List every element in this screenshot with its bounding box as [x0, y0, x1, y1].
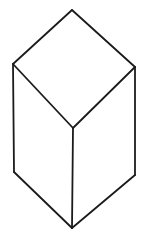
edge-top-right [72, 10, 135, 67]
edge-left-front_top [13, 64, 73, 128]
edge-front_top-front_bottom [72, 128, 73, 228]
edge-bottom_left-front_bottom [14, 172, 72, 228]
figure-container [0, 0, 145, 242]
cuboid-line-drawing [0, 0, 145, 242]
edge-left-bottom_left [13, 64, 14, 172]
edge-top-left [13, 10, 72, 64]
edge-bottom_right-front_bottom [72, 175, 135, 228]
edge-right-front_top [73, 67, 135, 128]
